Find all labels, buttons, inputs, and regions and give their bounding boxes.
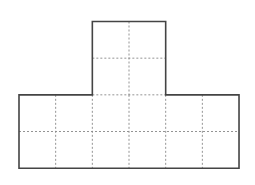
t-shape-grid-diagram [0,0,255,185]
